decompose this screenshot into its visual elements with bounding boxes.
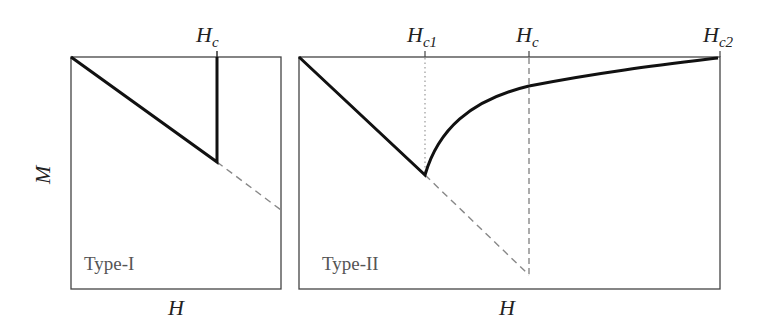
type-ii-extrapolation-dashed — [425, 175, 529, 275]
type-ii-label: Type-II — [322, 253, 379, 274]
type-ii-panel: Hc1 Hc Hc2 Type-II H — [299, 22, 734, 320]
type-ii-hc2-label: Hc2 — [702, 22, 734, 50]
type-ii-hc-label: Hc — [515, 22, 539, 50]
type-ii-x-axis-label: H — [498, 295, 516, 320]
type-i-label: Type-I — [84, 253, 134, 274]
y-axis-label: M — [30, 164, 55, 185]
type-ii-magnetization-curve — [299, 57, 718, 175]
type-i-panel: Hc Type-I H — [71, 22, 281, 320]
superconductor-magnetization-diagram: Hc Type-I H M Hc1 Hc Hc2 Type-II H — [0, 0, 769, 327]
type-i-extrapolation-dashed — [217, 162, 281, 210]
type-i-magnetization-curve — [71, 57, 217, 162]
type-ii-hc1-label: Hc1 — [406, 22, 437, 50]
type-i-hc-label: Hc — [195, 22, 219, 50]
type-i-x-axis-label: H — [167, 295, 185, 320]
